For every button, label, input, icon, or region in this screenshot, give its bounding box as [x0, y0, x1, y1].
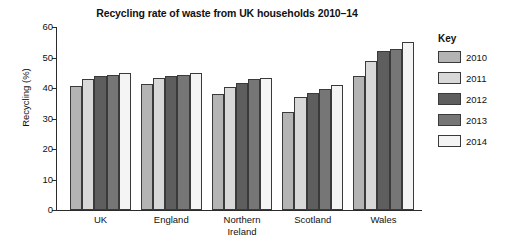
bar — [107, 75, 119, 210]
bar-group — [212, 27, 273, 210]
bar — [390, 49, 402, 210]
legend-label: 2012 — [466, 94, 487, 105]
y-tick-label: 30 — [42, 113, 53, 124]
legend-item-2010[interactable]: 2010 — [438, 48, 506, 66]
bar — [319, 89, 331, 210]
bar — [153, 78, 165, 210]
legend-swatch — [438, 51, 461, 63]
bar-group — [141, 27, 202, 210]
legend-label: 2010 — [466, 52, 487, 63]
legend-swatch — [438, 93, 461, 105]
bar — [190, 73, 202, 210]
y-tick-label: 0 — [48, 204, 53, 215]
y-axis-label: Recycling (%) — [20, 43, 31, 153]
bar — [70, 86, 82, 210]
legend-item-2011[interactable]: 2011 — [438, 69, 506, 87]
bar-group — [70, 27, 131, 210]
chart-title: Recycling rate of waste from UK househol… — [52, 7, 402, 19]
plot-area: 0102030405060 — [56, 27, 422, 211]
bar-chart: Recycling rate of waste from UK househol… — [0, 0, 509, 252]
bar — [331, 85, 343, 210]
bar — [402, 42, 414, 210]
legend-label: 2014 — [466, 136, 487, 147]
legend-title: Key — [438, 33, 506, 44]
bar — [141, 84, 153, 210]
bar — [119, 73, 131, 210]
y-axis-line — [56, 27, 57, 211]
y-tick-label: 40 — [42, 82, 53, 93]
legend-item-2012[interactable]: 2012 — [438, 90, 506, 108]
bar — [260, 78, 272, 210]
legend: Key 20102011201220132014 — [438, 33, 506, 153]
bar — [353, 76, 365, 210]
legend-label: 2011 — [466, 73, 486, 84]
y-tick-label: 20 — [42, 143, 53, 154]
y-tick-label: 50 — [42, 52, 53, 63]
legend-label: 2013 — [466, 115, 487, 126]
y-tick-label: 10 — [42, 174, 53, 185]
x-category-label: Wales — [339, 214, 429, 226]
bar — [94, 76, 106, 210]
bar — [212, 94, 224, 210]
bar — [377, 51, 389, 210]
bar — [248, 79, 260, 210]
bar-group — [353, 27, 414, 210]
bar — [236, 83, 248, 210]
bar — [82, 79, 94, 210]
legend-item-2013[interactable]: 2013 — [438, 111, 506, 129]
bar — [165, 76, 177, 210]
legend-item-2014[interactable]: 2014 — [438, 132, 506, 150]
legend-rows: 20102011201220132014 — [438, 48, 506, 150]
legend-swatch — [438, 72, 461, 84]
legend-swatch — [438, 114, 461, 126]
bar — [365, 61, 377, 210]
bar — [294, 97, 306, 210]
bar — [282, 112, 294, 210]
y-tick-label: 60 — [42, 21, 53, 32]
bar — [224, 87, 236, 210]
bar — [177, 75, 189, 210]
bar-group — [282, 27, 343, 210]
bar — [307, 93, 319, 210]
legend-swatch — [438, 135, 461, 147]
